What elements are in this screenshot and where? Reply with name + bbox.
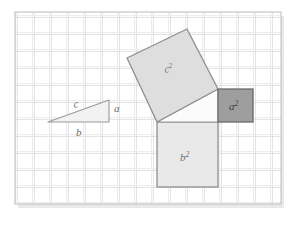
pythagorean-diagram: c a b c2 a2 b2 bbox=[0, 0, 296, 226]
label-a: a bbox=[114, 102, 120, 114]
label-b: b bbox=[76, 126, 82, 138]
figure-canvas: c a b c2 a2 b2 bbox=[0, 0, 296, 226]
